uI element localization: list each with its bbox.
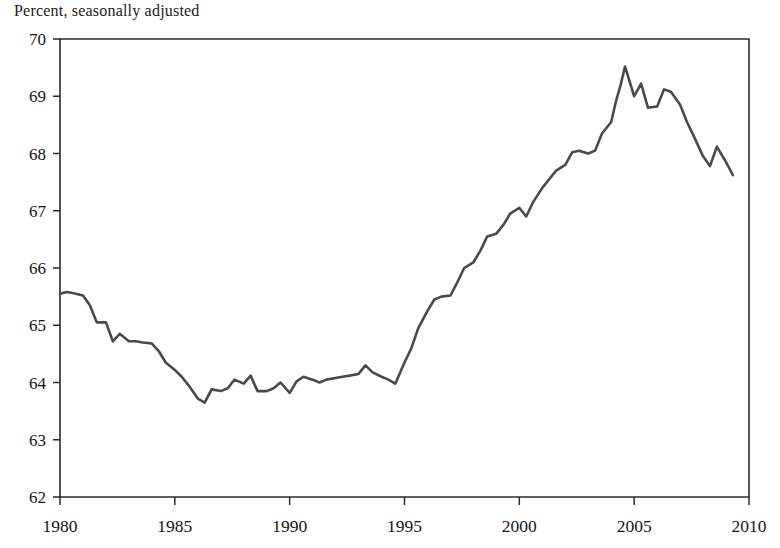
x-tick-label: 1980 — [43, 516, 78, 536]
data-series-group — [60, 66, 733, 402]
y-tick-label: 66 — [29, 259, 46, 278]
y-tick-label: 67 — [29, 202, 47, 221]
x-tick-label: 1985 — [157, 516, 192, 536]
plot-frame — [60, 39, 749, 497]
data-line — [60, 66, 733, 402]
x-tick-label: 2010 — [732, 516, 767, 536]
y-tick-label: 70 — [29, 30, 46, 49]
y-tick-label: 64 — [29, 374, 47, 393]
x-tick-label: 2005 — [617, 516, 652, 536]
x-tick-label: 1995 — [387, 516, 422, 536]
line-chart-plot: 626364656667686970 198019851990199520002… — [0, 0, 780, 548]
x-axis-ticks: 1980198519901995200020052010 — [43, 497, 767, 536]
y-tick-label: 62 — [29, 488, 46, 507]
x-tick-label: 2000 — [502, 516, 537, 536]
y-tick-label: 69 — [29, 87, 46, 106]
y-tick-label: 68 — [29, 145, 46, 164]
y-axis-ticks: 626364656667686970 — [29, 30, 60, 507]
y-tick-label: 65 — [29, 316, 46, 335]
x-tick-label: 1990 — [272, 516, 307, 536]
y-tick-label: 63 — [29, 431, 46, 450]
chart-container: Percent, seasonally adjusted 62636465666… — [0, 0, 780, 548]
